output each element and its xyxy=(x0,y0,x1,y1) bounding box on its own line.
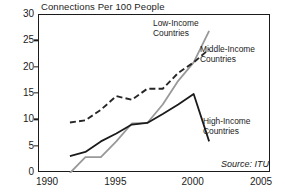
y-tick-label: 5 xyxy=(8,141,34,151)
y-tick-label: 25 xyxy=(8,35,34,45)
series-label-middle-income: Middle-Income Countries xyxy=(200,45,255,64)
x-axis: 1990199520002005 xyxy=(38,173,270,193)
series-label-high-income: High-Income Countries xyxy=(203,117,250,136)
series-label-high-income-line2: Countries xyxy=(203,127,250,137)
series-line xyxy=(70,94,209,156)
chart-figure: Connections Per 100 People 302520151050 … xyxy=(0,0,285,195)
series-line xyxy=(70,49,209,122)
series-label-middle-income-line2: Countries xyxy=(200,55,255,65)
x-tick-label: 1990 xyxy=(36,176,58,187)
source-note: Source: ITU xyxy=(221,159,269,169)
y-axis: 302520151050 xyxy=(6,14,34,172)
series-label-low-income: Low-Income Countries xyxy=(153,19,199,38)
y-tick-label: 0 xyxy=(8,167,34,177)
y-tick-label: 15 xyxy=(8,88,34,98)
x-tick-label: 2005 xyxy=(250,176,272,187)
series-line xyxy=(70,31,209,173)
y-tick-label: 30 xyxy=(8,9,34,19)
x-tick-label: 1995 xyxy=(104,176,126,187)
chart-title: Connections Per 100 People xyxy=(41,1,165,12)
x-tick-label: 2000 xyxy=(182,176,204,187)
series-label-low-income-line2: Countries xyxy=(153,29,199,39)
series-plot xyxy=(39,15,271,173)
y-tick-label: 20 xyxy=(8,62,34,72)
y-tick-label: 10 xyxy=(8,114,34,124)
